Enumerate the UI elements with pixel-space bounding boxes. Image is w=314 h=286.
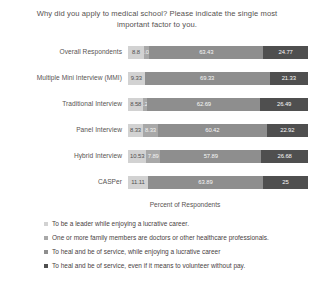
bar-value-label: 26.68 xyxy=(278,153,292,159)
legend-label: To be a leader while enjoying a lucrativ… xyxy=(52,220,189,228)
category-label: Multiple Mini Interview (MMI) xyxy=(6,74,128,82)
bar-value-label: 25 xyxy=(282,179,288,185)
chart-title: Why did you apply to medical school? Ple… xyxy=(6,6,308,30)
bar-segment: 69.33 xyxy=(145,72,270,85)
bar-value-label: 69.33 xyxy=(200,75,214,81)
bar-track: 8.582.2462.6926.49 xyxy=(128,98,308,111)
bar-segment: 8.58 xyxy=(128,98,143,111)
bar-value-label: 10.53 xyxy=(130,153,144,159)
bar-segment: 11.11 xyxy=(128,176,148,189)
bar-value-label: 7.89 xyxy=(148,153,159,159)
bar-segment: 22.92 xyxy=(267,124,308,137)
bar-segment: 8.33 xyxy=(128,124,143,137)
chart-legend: To be a leader while enjoying a lucrativ… xyxy=(6,220,308,270)
plot-area: Overall Respondents8.83.0163.4324.77Mult… xyxy=(6,39,308,195)
legend-label: To heal and be of service, even if it me… xyxy=(52,262,245,270)
category-label: Hybrid Interview xyxy=(6,152,128,160)
bar-segment: 63.89 xyxy=(148,176,263,189)
legend-item: To be a leader while enjoying a lucrativ… xyxy=(44,220,308,228)
bar-value-label: 60.42 xyxy=(205,127,219,133)
bar-value-label: 63.89 xyxy=(198,179,212,185)
bar-value-label: 11.11 xyxy=(131,179,144,185)
bar-segment: 60.42 xyxy=(158,124,267,137)
category-label: CASPer xyxy=(6,178,128,186)
category-label: Traditional Interview xyxy=(6,100,128,108)
bar-row: Panel Interview8.338.3360.4222.92 xyxy=(6,117,308,143)
legend-label: To heal and be of service, while enjoyin… xyxy=(52,248,220,256)
bar-segment: 8.33 xyxy=(143,124,158,137)
legend-swatch-icon xyxy=(44,250,48,254)
bar-segment: 24.77 xyxy=(263,46,308,59)
stacked-bar-chart: Why did you apply to medical school? Ple… xyxy=(0,0,314,286)
bar-value-label: 26.49 xyxy=(277,101,291,107)
bar-value-label: 8.33 xyxy=(130,127,141,133)
bar-value-label: 21.33 xyxy=(282,75,296,81)
bar-segment: 63.43 xyxy=(149,46,263,59)
legend-swatch-icon xyxy=(44,264,48,268)
bar-track: 9.33069.3321.33 xyxy=(128,72,308,85)
bar-row: Traditional Interview8.582.2462.6926.49 xyxy=(6,91,308,117)
bar-row: Multiple Mini Interview (MMI)9.33069.332… xyxy=(6,65,308,91)
bar-track: 10.537.8957.8926.68 xyxy=(128,150,308,163)
bar-track: 8.338.3360.4222.92 xyxy=(128,124,308,137)
legend-item: One or more family members are doctors o… xyxy=(44,234,308,242)
bar-segment: 25 xyxy=(263,176,308,189)
x-axis-label: Percent of Respondents xyxy=(6,201,308,208)
bar-value-label: 8.8 xyxy=(132,49,140,55)
bar-segment: 26.49 xyxy=(260,98,308,111)
bar-segment: 10.53 xyxy=(128,150,146,163)
bar-value-label: 62.69 xyxy=(197,101,211,107)
legend-swatch-icon xyxy=(44,236,48,240)
bar-row: Overall Respondents8.83.0163.4324.77 xyxy=(6,39,308,65)
category-label: Panel Interview xyxy=(6,126,128,134)
legend-item: To heal and be of service, even if it me… xyxy=(44,262,308,270)
bar-value-label: 57.89 xyxy=(204,153,218,159)
bar-track: 8.83.0163.4324.77 xyxy=(128,46,308,59)
bar-row: CASPer11.11063.8925 xyxy=(6,169,308,195)
bar-segment: 9.33 xyxy=(128,72,145,85)
bar-track: 11.11063.8925 xyxy=(128,176,308,189)
legend-swatch-icon xyxy=(44,222,48,226)
bar-value-label: 8.58 xyxy=(130,101,141,107)
bar-segment: 8.8 xyxy=(128,46,144,59)
bar-segment: 21.33 xyxy=(270,72,308,85)
legend-item: To heal and be of service, while enjoyin… xyxy=(44,248,308,256)
bar-value-label: 63.43 xyxy=(199,49,213,55)
category-label: Overall Respondents xyxy=(6,48,128,56)
bar-value-label: 24.77 xyxy=(279,49,293,55)
bar-row: Hybrid Interview10.537.8957.8926.68 xyxy=(6,143,308,169)
bar-segment: 57.89 xyxy=(160,150,261,163)
bar-value-label: 9.33 xyxy=(131,75,142,81)
legend-label: One or more family members are doctors o… xyxy=(52,234,269,242)
bar-segment: 26.68 xyxy=(261,150,308,163)
bar-value-label: 22.92 xyxy=(280,127,294,133)
bar-segment: 7.89 xyxy=(146,150,160,163)
bar-value-label: 8.33 xyxy=(145,127,156,133)
bar-segment: 62.69 xyxy=(147,98,260,111)
